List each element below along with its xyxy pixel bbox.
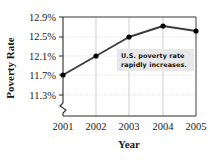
annotation-line-2: rapidly increases. [121,61,187,69]
data-point-2004 [160,23,165,28]
x-tick-label-2004: 2004 [153,121,175,132]
x-tick-label-2003: 2003 [119,121,140,132]
y-tick-label-11-3: 11.3% [29,90,56,101]
y-axis-title: Poverty Rate [4,37,16,99]
data-point-2001 [60,72,65,77]
y-axis-ticks [59,17,63,95]
data-point-2003 [126,34,131,39]
y-tick-label-12-1: 12.1% [29,51,56,62]
chart-canvas: 12.9% 12.5% 12.1% 11.7% 11.3% U.S. pover… [0,0,210,166]
y-tick-label-12-9: 12.9% [29,12,56,23]
data-point-2002 [93,53,98,58]
x-tick-label-2002: 2002 [86,121,107,132]
x-tick-label-2001: 2001 [53,121,74,132]
annotation-line-1: U.S. poverty rate [121,52,185,60]
x-tick-label-2005: 2005 [186,121,207,132]
y-tick-label-11-7: 11.7% [29,70,56,81]
annotation-callout: U.S. poverty rate rapidly increases. [117,49,194,71]
poverty-rate-line-chart: 12.9% 12.5% 12.1% 11.7% 11.3% U.S. pover… [0,0,210,166]
x-axis-title: Year [118,138,140,150]
data-point-2005 [193,28,198,33]
y-tick-label-12-5: 12.5% [29,31,56,42]
